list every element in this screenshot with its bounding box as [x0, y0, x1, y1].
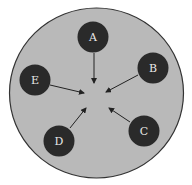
node-c-label: C [140, 125, 148, 138]
node-e: E [20, 65, 51, 96]
node-c: C [129, 116, 160, 147]
node-d: D [44, 126, 75, 157]
node-d-label: D [55, 135, 64, 148]
node-b-label: B [149, 62, 157, 75]
node-b: B [138, 53, 169, 84]
node-e-label: E [31, 74, 39, 87]
node-a: A [78, 22, 109, 53]
diagram-canvas: A B C D E [0, 0, 192, 185]
node-a-label: A [88, 31, 98, 44]
